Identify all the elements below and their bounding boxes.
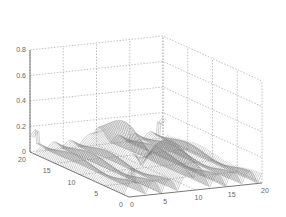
x-tick-label: 0 <box>130 201 134 208</box>
y-tick-label: 5 <box>94 190 98 197</box>
y-tick-label: 10 <box>68 179 76 186</box>
plot-canvas: 00.20.40.60.80510152005101520 <box>0 0 286 217</box>
axes: 00.20.40.60.80510152005101520 <box>16 46 269 208</box>
surface-mesh <box>30 117 262 195</box>
surface-plot: 00.20.40.60.80510152005101520 <box>0 0 286 217</box>
y-tick-label: 0 <box>119 201 123 208</box>
z-tick-label: 0.6 <box>16 72 26 79</box>
z-tick-label: 0 <box>22 148 26 155</box>
z-tick-label: 0.2 <box>16 123 26 130</box>
z-tick-label: 0.8 <box>16 46 26 53</box>
x-tick-label: 5 <box>163 198 167 205</box>
y-tick-label: 20 <box>18 156 26 163</box>
z-tick-label: 0.4 <box>16 97 26 104</box>
x-tick-label: 10 <box>195 194 203 201</box>
x-tick-label: 20 <box>261 187 269 194</box>
x-tick-label: 15 <box>228 191 236 198</box>
y-tick-label: 15 <box>43 167 51 174</box>
